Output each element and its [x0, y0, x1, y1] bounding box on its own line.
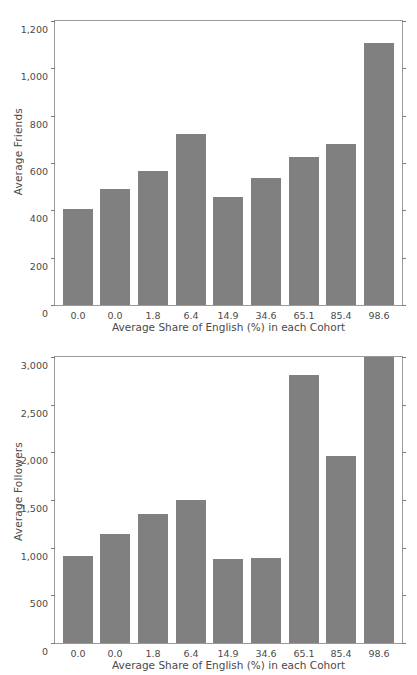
x-axis-tick-mark — [341, 639, 342, 643]
y-axis-tick-label: 2,500 — [21, 408, 55, 418]
x-axis-tick-mark — [228, 301, 229, 305]
plot-area-friends: 02004006008001,0001,2000.00.01.86.414.93… — [54, 20, 403, 306]
y-axis-tick-label: 1,000 — [21, 72, 55, 82]
x-axis-tick-mark — [379, 301, 380, 305]
figure-two-bar-charts: Average Friends 02004006008001,0001,2000… — [0, 0, 417, 675]
y-axis-tick-mark-right — [402, 595, 406, 596]
bar-series-followers — [55, 357, 402, 643]
y-axis-tick-label: 2,000 — [21, 456, 55, 466]
x-axis-tick-label: 98.6 — [368, 305, 389, 321]
bar-series-friends — [55, 21, 402, 305]
y-axis-tick-label: 500 — [30, 599, 55, 609]
y-axis-tick-mark-right — [402, 163, 406, 164]
x-axis-tick-label: 85.4 — [330, 643, 351, 659]
bar — [251, 558, 281, 643]
x-axis-tick-label: 98.6 — [368, 643, 389, 659]
y-axis-tick-mark — [51, 643, 55, 644]
x-axis-tick-label: 6.4 — [183, 305, 198, 321]
x-axis-tick-label: 85.4 — [330, 305, 351, 321]
x-axis-tick-mark — [153, 301, 154, 305]
bar — [251, 178, 281, 305]
y-axis-tick-mark-right — [402, 116, 406, 117]
y-axis-tick-mark-right — [402, 210, 406, 211]
y-axis-tick-label: 0 — [42, 647, 55, 657]
x-axis-label-followers: Average Share of English (%) in each Coh… — [54, 659, 403, 671]
x-axis-tick-label: 1.8 — [145, 305, 160, 321]
bar — [213, 197, 243, 305]
bar — [176, 500, 206, 643]
y-axis-tick-mark-right — [402, 643, 406, 644]
y-axis-tick-label: 1,500 — [21, 504, 55, 514]
bar — [138, 514, 168, 643]
y-axis-tick-mark-right — [402, 357, 406, 358]
bar — [326, 144, 356, 305]
x-axis-tick-mark — [153, 639, 154, 643]
x-axis-tick-mark — [228, 639, 229, 643]
y-axis-tick-mark — [51, 357, 55, 358]
x-axis-tick-label: 0.0 — [70, 305, 85, 321]
y-axis-tick-mark-right — [402, 548, 406, 549]
bar — [100, 189, 130, 305]
bar — [63, 209, 93, 305]
y-axis-tick-mark — [51, 452, 55, 453]
y-axis-tick-label: 200 — [30, 261, 55, 271]
y-axis-tick-mark — [51, 305, 55, 306]
y-axis-tick-mark — [51, 68, 55, 69]
y-axis-tick-mark-right — [402, 500, 406, 501]
x-axis-tick-mark — [191, 639, 192, 643]
y-axis-tick-label: 1,200 — [21, 25, 55, 35]
y-axis-tick-mark-right — [402, 21, 406, 22]
y-axis-tick-mark — [51, 21, 55, 22]
bar — [289, 375, 319, 643]
x-axis-tick-label: 6.4 — [183, 643, 198, 659]
y-axis-tick-label: 0 — [42, 309, 55, 319]
x-axis-tick-label: 14.9 — [217, 305, 238, 321]
x-axis-tick-label: 65.1 — [293, 643, 314, 659]
x-axis-tick-mark — [266, 639, 267, 643]
x-axis-tick-label: 0.0 — [107, 305, 122, 321]
plot-area-followers: 05001,0001,5002,0002,5003,0000.00.01.86.… — [54, 356, 403, 644]
y-axis-tick-mark — [51, 548, 55, 549]
y-axis-tick-mark — [51, 405, 55, 406]
x-axis-tick-label: 1.8 — [145, 643, 160, 659]
y-axis-tick-mark — [51, 500, 55, 501]
y-axis-tick-label: 400 — [30, 214, 55, 224]
chart-panel-average-friends: Average Friends 02004006008001,0001,2000… — [0, 0, 417, 337]
chart-panel-average-followers: Average Followers 05001,0001,5002,0002,5… — [0, 338, 417, 675]
y-axis-tick-mark-right — [402, 68, 406, 69]
x-axis-tick-label: 34.6 — [255, 305, 276, 321]
y-axis-tick-label: 3,000 — [21, 361, 55, 371]
x-axis-tick-mark — [341, 301, 342, 305]
x-axis-label-friends: Average Share of English (%) in each Coh… — [54, 321, 403, 333]
x-axis-tick-mark — [266, 301, 267, 305]
bar — [364, 43, 394, 305]
y-axis-tick-mark — [51, 258, 55, 259]
x-axis-tick-mark — [78, 639, 79, 643]
y-axis-tick-label: 800 — [30, 119, 55, 129]
y-axis-tick-label: 600 — [30, 167, 55, 177]
x-axis-tick-label: 0.0 — [70, 643, 85, 659]
bar — [176, 134, 206, 305]
x-axis-tick-label: 65.1 — [293, 305, 314, 321]
bar — [138, 171, 168, 305]
y-axis-tick-mark-right — [402, 405, 406, 406]
x-axis-tick-mark — [379, 639, 380, 643]
x-axis-tick-label: 0.0 — [107, 643, 122, 659]
y-axis-tick-mark-right — [402, 258, 406, 259]
bar — [63, 556, 93, 643]
x-axis-tick-label: 14.9 — [217, 643, 238, 659]
bar — [364, 357, 394, 643]
bar — [213, 559, 243, 643]
y-axis-tick-mark — [51, 163, 55, 164]
bar — [289, 157, 319, 305]
x-axis-tick-mark — [78, 301, 79, 305]
x-axis-tick-mark — [304, 639, 305, 643]
y-axis-tick-mark-right — [402, 305, 406, 306]
x-axis-tick-mark — [115, 301, 116, 305]
bar — [100, 534, 130, 643]
y-axis-tick-mark — [51, 595, 55, 596]
y-axis-tick-mark — [51, 210, 55, 211]
y-axis-tick-label: 1,000 — [21, 551, 55, 561]
x-axis-tick-mark — [304, 301, 305, 305]
x-axis-tick-mark — [191, 301, 192, 305]
